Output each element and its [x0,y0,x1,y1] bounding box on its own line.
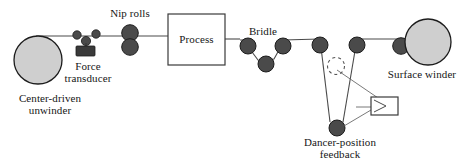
web-handling-diagram: Center-driven unwinder Force transducer … [0,0,469,163]
nip-roll-lower [122,39,139,56]
linkage-upper [337,70,381,100]
label-bridle: Bridle [239,25,287,37]
force-transducer-block [76,46,95,56]
label-center-driven-unwinder: Center-driven unwinder [0,92,100,116]
linkage-lower [344,110,371,126]
bridle-roller-left [240,38,256,54]
surface-winder-roll [405,19,451,65]
label-dancer-position-feedback: Dancer-position feedback [294,136,386,160]
feedback-sensor-box [371,97,398,115]
idler-roller-post-dancer [349,37,365,53]
dancer-roller [329,120,345,136]
bridle-roller-bottom [258,56,274,72]
label-process: Process [168,33,225,45]
label-nip-rolls: Nip rolls [98,7,162,19]
idler-roller-2 [92,30,100,38]
label-surface-winder: Surface winder [376,68,468,80]
unwinder-roll [14,36,62,84]
dancer-travel-indicator-icon [328,58,345,75]
idler-roller-1 [73,31,81,39]
bridle-roller-right [275,38,291,54]
idler-roller-pre-dancer [312,37,328,53]
label-force-transducer: Force transducer [57,60,119,84]
